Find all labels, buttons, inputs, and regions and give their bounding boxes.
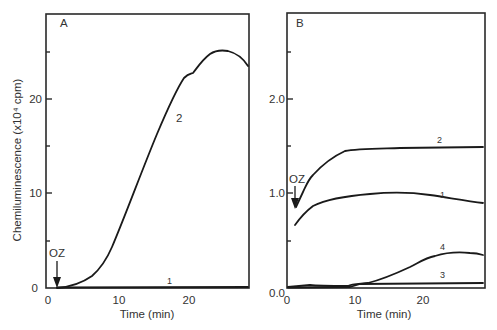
oz-label: OZ	[49, 247, 65, 259]
x-axis-title: Time (min)	[357, 308, 412, 320]
curve-label-2: 2	[437, 135, 442, 145]
y-tick-label: 0.0	[269, 287, 285, 299]
y-tick-label: 0	[32, 282, 38, 294]
y-axis-title: Chemiluminescence (x10⁴ cpm)	[11, 78, 23, 241]
panel-b: B 0.0 1.0 2.0 0 10 20 Time (min) 2 1 4 3…	[269, 13, 485, 320]
x-tick-label: 10	[349, 294, 362, 306]
x-tick-label: 0	[45, 294, 51, 306]
panel-b-label: B	[296, 17, 304, 29]
curve-label-2: 2	[176, 112, 182, 124]
x-axis-title: Time (min)	[120, 308, 175, 320]
x-tick-label: 20	[417, 294, 430, 306]
panel-a: A 0 10 20 0 10 20 Time (min) Chemilumine…	[11, 14, 249, 320]
x-tick-label: 10	[113, 294, 126, 306]
y-tick-label: 10	[29, 187, 42, 199]
panel-a-label: A	[60, 17, 68, 29]
curve-label-1: 1	[167, 276, 172, 286]
x-tick-label: 0	[284, 294, 290, 306]
curve-label-1: 1	[440, 190, 445, 200]
curve-1	[57, 287, 248, 288]
panel-b-frame	[287, 13, 485, 288]
panel-a-frame	[46, 14, 249, 288]
x-tick-label: 20	[183, 294, 196, 306]
y-tick-label: 20	[29, 93, 42, 105]
figure: A 0 10 20 0 10 20 Time (min) Chemilumine…	[0, 0, 497, 330]
curve-label-3: 3	[440, 270, 445, 280]
curve-4	[288, 252, 483, 287]
arrow-down-icon	[53, 277, 61, 288]
curve-2	[57, 50, 248, 288]
curve-1	[295, 193, 483, 225]
y-tick-label: 2.0	[269, 93, 285, 105]
oz-label: OZ	[289, 173, 305, 185]
curve-label-4: 4	[440, 242, 445, 252]
y-tick-label: 1.0	[269, 187, 285, 199]
